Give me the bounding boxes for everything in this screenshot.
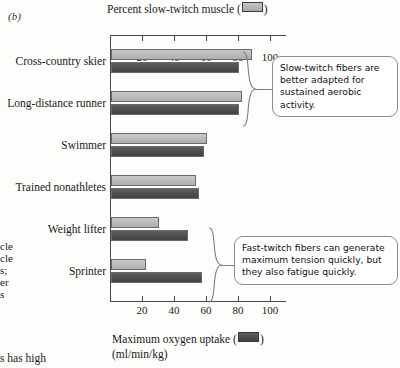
tick-bot-20 <box>142 296 143 301</box>
bar-max_oxygen_uptake-5 <box>111 272 202 283</box>
category-label-2: Swimmer <box>61 139 106 151</box>
bar-slow_twitch-1 <box>111 91 242 102</box>
panel-label: (b) <box>8 10 21 22</box>
bar-slow_twitch-4 <box>111 217 159 228</box>
bottom-axis-title: Maximum oxygen uptake () <box>112 332 264 345</box>
tick-top-20 <box>142 36 143 41</box>
tick-label-bot-100: 100 <box>262 304 279 316</box>
top-axis-title-text: Percent slow-twitch muscle <box>107 3 234 15</box>
tick-label-bot-20: 20 <box>137 304 148 316</box>
bar-slow_twitch-5 <box>111 259 146 270</box>
bar-max_oxygen_uptake-2 <box>111 146 204 157</box>
bar-max_oxygen_uptake-1 <box>111 104 239 115</box>
annotation-anaerobic: Fast-twitch fibers can generate maximum … <box>234 236 398 285</box>
bottom-axis-line <box>110 301 286 302</box>
annotation-anaerobic-text: Fast-twitch fibers can generate maximum … <box>242 242 385 277</box>
legend-swatch-slow-twitch <box>242 2 263 12</box>
leader-aerobic <box>255 89 273 90</box>
top-axis-title: Percent slow-twitch muscle () <box>107 2 268 15</box>
top-axis-line <box>110 35 286 36</box>
bar-max_oxygen_uptake-4 <box>111 230 188 241</box>
legend-swatch-max-oxygen <box>238 332 259 342</box>
category-label-4: Weight lifter <box>48 223 106 235</box>
leader-anaerobic <box>221 265 235 266</box>
bottom-clipped-text: s has high <box>0 352 46 364</box>
tick-label-bot-80: 80 <box>233 304 244 316</box>
bar-slow_twitch-0 <box>111 49 252 60</box>
bar-slow_twitch-2 <box>111 133 207 144</box>
tick-bot-100 <box>270 296 271 301</box>
margin-clipped-line-3: er <box>0 276 13 288</box>
bottom-axis-title-text: Maximum oxygen uptake <box>112 333 230 345</box>
bar-slow_twitch-3 <box>111 175 196 186</box>
margin-clipped-line-1: cle <box>0 252 13 264</box>
margin-clipped-line-0: cle <box>0 240 13 252</box>
category-label-3: Trained nonathletes <box>15 181 106 193</box>
category-labels: Cross-country skierLong-distance runnerS… <box>0 35 106 302</box>
category-label-5: Sprinter <box>69 265 106 277</box>
tick-label-bot-60: 60 <box>201 304 212 316</box>
tick-top-100 <box>270 36 271 41</box>
bottom-axis-units: (ml/min/kg) <box>112 348 168 360</box>
category-label-1: Long-distance runner <box>7 97 106 109</box>
category-label-0: Cross-country skier <box>16 55 106 67</box>
tick-top-80 <box>238 36 239 41</box>
bar-max_oxygen_uptake-3 <box>111 188 199 199</box>
tick-bot-40 <box>174 296 175 301</box>
tick-label-bot-40: 40 <box>169 304 180 316</box>
margin-clipped-line-4: s <box>0 288 13 300</box>
annotation-aerobic-text: Slow-twitch fibers are better adapted fo… <box>280 62 380 110</box>
tick-top-60 <box>206 36 207 41</box>
margin-clipped-line-2: s; <box>0 264 13 276</box>
margin-clipped-text: clecles;ers <box>0 240 13 300</box>
tick-top-40 <box>174 36 175 41</box>
annotation-aerobic: Slow-twitch fibers are better adapted fo… <box>272 56 398 117</box>
bar-max_oxygen_uptake-0 <box>111 62 239 73</box>
tick-bot-80 <box>238 296 239 301</box>
